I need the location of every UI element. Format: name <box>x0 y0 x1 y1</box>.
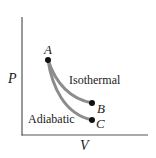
point-b <box>89 100 95 106</box>
point-a-label: A <box>44 43 52 56</box>
adiabatic-label: Adiabatic <box>28 113 75 125</box>
point-c <box>89 117 95 123</box>
isothermal-label: Isothermal <box>69 74 120 86</box>
adiabatic-curve <box>48 60 92 120</box>
pv-diagram: P V A B C Isothermal Adiabatic <box>0 0 156 158</box>
x-axis-label: V <box>80 139 89 153</box>
y-axis-label: P <box>8 72 17 86</box>
point-c-label: C <box>96 117 105 130</box>
point-a <box>45 57 51 63</box>
point-b-label: B <box>97 102 105 115</box>
